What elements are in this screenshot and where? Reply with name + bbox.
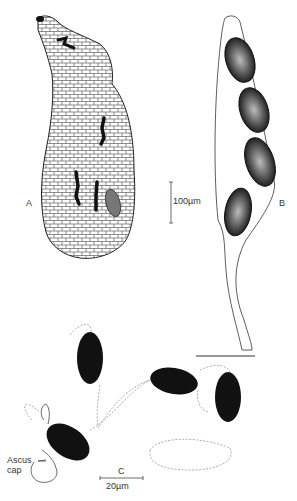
figure-illustration — [0, 0, 297, 501]
ascus-cap-label-line1: Ascus — [7, 456, 32, 465]
discharged-spores-drawing — [25, 324, 241, 482]
scale-label-100um: 100µm — [173, 197, 201, 206]
scale-label-20um: 20µm — [106, 482, 129, 491]
figure: A 100µm B C 20µm Ascus cap — [0, 0, 297, 501]
perithecium-drawing — [36, 16, 135, 258]
panel-label-b: B — [279, 199, 285, 208]
ascus-cap-label-line2: cap — [7, 466, 22, 475]
panel-label-a: A — [26, 199, 32, 208]
ascus-drawing — [215, 16, 281, 350]
panel-label-c: C — [118, 467, 125, 476]
scale-bar-20um — [100, 476, 143, 480]
